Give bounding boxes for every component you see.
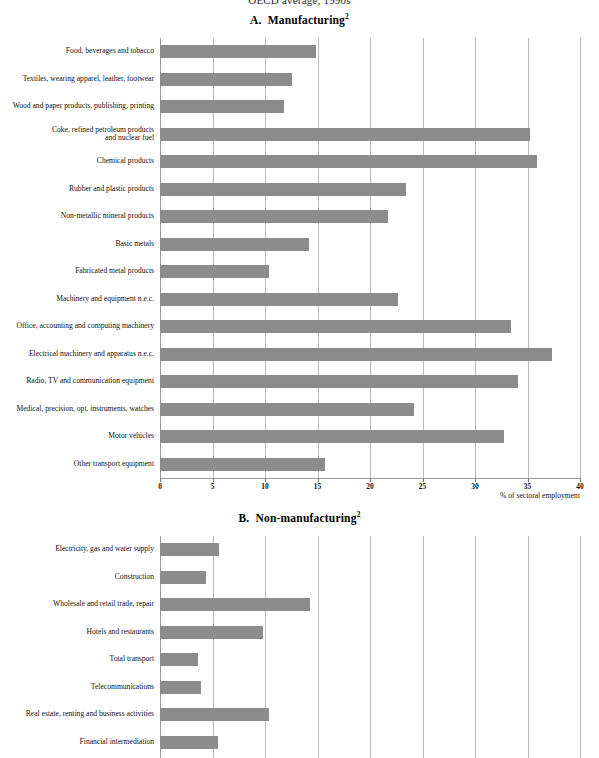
bar-row-label: Construction [0, 573, 154, 582]
bar-row: Basic metals [160, 231, 580, 259]
bar-row: Medical, precision, opt. instruments, wa… [160, 396, 580, 424]
bar-row: Electrical machinery and apparatus n.e.c… [160, 341, 580, 369]
bar-row: Office, accounting and computing machine… [160, 313, 580, 341]
bar-row: Hotels and restaurants [160, 619, 580, 647]
bar [160, 430, 504, 443]
bar-row-label: Other transport equipment [0, 460, 154, 469]
bar [160, 238, 309, 251]
bar-row: Machinery and equipment n.e.c. [160, 286, 580, 314]
gridline [580, 536, 581, 758]
bar-row-label: Radio, TV and communication equipment [0, 377, 154, 386]
bar-row: Fabricated metal products [160, 258, 580, 286]
axis-tick-label: 30 [471, 482, 478, 491]
bar-row: Telecommunications [160, 674, 580, 702]
bar-row-label: Hotels and restaurants [0, 628, 154, 637]
bar [160, 598, 310, 611]
gridline [580, 38, 581, 478]
axis-tick-label: 10 [261, 482, 268, 491]
bar-row: Wood and paper products, publishing, pri… [160, 93, 580, 121]
bar-row: Food, beverages and tobacco [160, 38, 580, 66]
x-axis-caption: % of sectoral employment [500, 491, 580, 500]
bar-row: Other transport equipment [160, 451, 580, 479]
bar [160, 736, 218, 749]
bar [160, 375, 518, 388]
bar-row: Wholesale and retail trade, repair [160, 591, 580, 619]
bar-row-label: Medical, precision, opt. instruments, wa… [0, 405, 154, 414]
bar-row: Motor vehicles [160, 423, 580, 451]
bar [160, 403, 414, 416]
bar [160, 265, 269, 278]
bar [160, 293, 398, 306]
bar-rows-non-manufacturing: Electricity, gas and water supplyConstru… [160, 536, 580, 756]
bar-row: Construction [160, 564, 580, 592]
bar-row-label: Rubber and plastic products [0, 185, 154, 194]
axis-tick-label: 15 [314, 482, 321, 491]
bar [160, 571, 206, 584]
bar-row: Chemical products [160, 148, 580, 176]
panel-a-title: A. Manufacturing2 [0, 14, 599, 26]
bar [160, 681, 201, 694]
axis-tick-label: 35 [524, 482, 531, 491]
bar [160, 73, 292, 86]
bar [160, 626, 263, 639]
bar-row: Electricity, gas and water supply [160, 536, 580, 564]
bar-row-label: Real estate, renting and business activi… [0, 710, 154, 719]
bar-row-label: Basic metals [0, 240, 154, 249]
panel-a-letter: A. [250, 14, 262, 26]
figure-supertitle: OECD average, 1990s [0, 0, 599, 6]
bar-row: Coke, refined petroleum products and nuc… [160, 121, 580, 149]
panel-a-heading: Manufacturing [268, 14, 345, 26]
panel-b-footnote-marker: 2 [357, 510, 361, 519]
bar [160, 128, 530, 141]
axis-tick-label: 40 [576, 482, 583, 491]
axis-tick-label: 20 [366, 482, 373, 491]
panel-manufacturing: A. Manufacturing2 Food, beverages and to… [0, 14, 599, 478]
x-axis-manufacturing: % of sectoral employment 051015202530354… [160, 478, 580, 504]
axis-tick-label: 0 [158, 482, 162, 491]
bar-row: Real estate, renting and business activi… [160, 701, 580, 729]
bar [160, 708, 269, 721]
panel-a-footnote-marker: 2 [345, 12, 349, 21]
bar-row-label: Non-metallic mineral products [0, 212, 154, 221]
plot-area-non-manufacturing: Electricity, gas and water supplyConstru… [160, 536, 580, 758]
bar [160, 348, 552, 361]
bar-row-label: Telecommunications [0, 683, 154, 692]
bar-row-label: Financial intermediation [0, 738, 154, 747]
bar [160, 320, 511, 333]
bar-row-label: Coke, refined petroleum products and nuc… [0, 126, 154, 143]
panel-b-letter: B. [238, 512, 249, 524]
bar-row-label: Machinery and equipment n.e.c. [0, 295, 154, 304]
bar-row-label: Textiles, wearing apparel, leather, foot… [0, 75, 154, 84]
bar-row: Non-metallic mineral products [160, 203, 580, 231]
bar [160, 155, 537, 168]
bar-row-label: Electrical machinery and apparatus n.e.c… [0, 350, 154, 359]
bar-row: Rubber and plastic products [160, 176, 580, 204]
bar [160, 210, 388, 223]
bar-row: Total transport [160, 646, 580, 674]
bar-row-label: Chemical products [0, 157, 154, 166]
bar-row-label: Wood and paper products, publishing, pri… [0, 102, 154, 111]
bar [160, 543, 219, 556]
bar-row-label: Electricity, gas and water supply [0, 545, 154, 554]
bar [160, 653, 198, 666]
bar [160, 100, 284, 113]
bar-row-label: Office, accounting and computing machine… [0, 322, 154, 331]
bar-row: Radio, TV and communication equipment [160, 368, 580, 396]
bar-row-label: Total transport [0, 655, 154, 664]
bar-row-label: Motor vehicles [0, 432, 154, 441]
bar-row-label: Wholesale and retail trade, repair [0, 600, 154, 609]
bar [160, 183, 406, 196]
panel-b-title: B. Non-manufacturing2 [0, 512, 599, 524]
bar-row-label: Fabricated metal products [0, 267, 154, 276]
axis-tick-label: 5 [211, 482, 215, 491]
bar [160, 458, 325, 471]
axis-tick-label: 25 [419, 482, 426, 491]
bar-rows-manufacturing: Food, beverages and tobaccoTextiles, wea… [160, 38, 580, 478]
bar [160, 45, 316, 58]
panel-b-heading: Non-manufacturing [256, 512, 357, 524]
panel-non-manufacturing: B. Non-manufacturing2 Electricity, gas a… [0, 512, 599, 758]
bar-row: Textiles, wearing apparel, leather, foot… [160, 66, 580, 94]
bar-row-label: Food, beverages and tobacco [0, 47, 154, 56]
plot-area-manufacturing: Food, beverages and tobaccoTextiles, wea… [160, 38, 580, 478]
bar-row: Financial intermediation [160, 729, 580, 757]
